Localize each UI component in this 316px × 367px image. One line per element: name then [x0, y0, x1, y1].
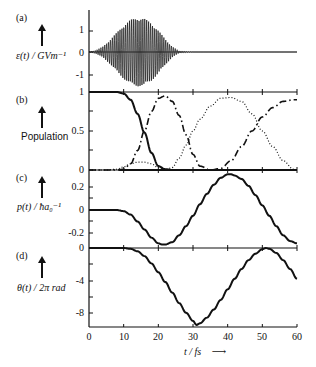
- xtick-label: 40: [218, 331, 238, 342]
- xaxis-label: t / fs ⟶: [184, 346, 226, 357]
- ytick-label: -4: [60, 275, 84, 286]
- ytick-label: 0: [60, 242, 84, 253]
- arrow-up-icon: [41, 30, 43, 46]
- ytick-label: 0: [60, 164, 84, 175]
- arrow-up-icon: [41, 182, 43, 198]
- ytick-label: 1: [60, 24, 84, 35]
- xtick-label: 0: [79, 331, 99, 342]
- panel-a-ylabel: ε(t) / GVm⁻¹: [16, 50, 66, 61]
- arrow-right-icon: ⟶: [212, 346, 226, 357]
- ytick-label: -8: [60, 307, 84, 318]
- xtick-label: 50: [252, 331, 272, 342]
- ytick-label: 0: [60, 204, 84, 215]
- panel-d-letter: (d): [16, 250, 28, 261]
- ytick-label: 0: [60, 47, 84, 58]
- xaxis-label-text: t / fs: [184, 346, 201, 357]
- ytick-label: -0.2: [60, 227, 84, 238]
- ytick-label: 0.5: [60, 125, 84, 136]
- panel-b-letter: (b): [16, 94, 28, 105]
- ytick-label: 0.2: [60, 181, 84, 192]
- xtick-label: 30: [183, 331, 203, 342]
- ytick-label: 1: [60, 86, 84, 97]
- panel-c-letter: (c): [16, 172, 27, 183]
- panel-a-letter: (a): [16, 12, 27, 23]
- panel-d-ylabel: θ(t) / 2π rad: [17, 282, 66, 293]
- xtick-label: 60: [287, 331, 307, 342]
- arrow-up-icon: [41, 112, 43, 128]
- ytick-label: -1: [60, 69, 84, 80]
- arrow-up-icon: [41, 262, 43, 278]
- panel-c-ylabel: p(t) / ħa₀⁻¹: [17, 201, 61, 212]
- xtick-label: 10: [114, 331, 134, 342]
- xtick-label: 20: [148, 331, 168, 342]
